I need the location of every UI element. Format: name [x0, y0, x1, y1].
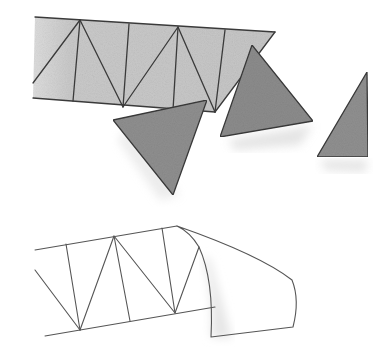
bottom-strip-vertical-2 — [114, 236, 130, 321]
triangle-3 — [317, 72, 368, 157]
bottom-outline-strip — [35, 226, 296, 338]
bottom-strip-vertical-3 — [162, 228, 175, 313]
bottom-strip-zigzag — [80, 236, 199, 330]
geometry-illustration — [0, 0, 383, 362]
bottom-strip-vertical-1 — [66, 244, 80, 330]
triangle-3-shadow — [320, 160, 368, 172]
curved-flap — [177, 226, 296, 337]
bottom-strip-top-edge — [35, 226, 177, 250]
bottom-strip-left-diagonal — [35, 270, 80, 330]
